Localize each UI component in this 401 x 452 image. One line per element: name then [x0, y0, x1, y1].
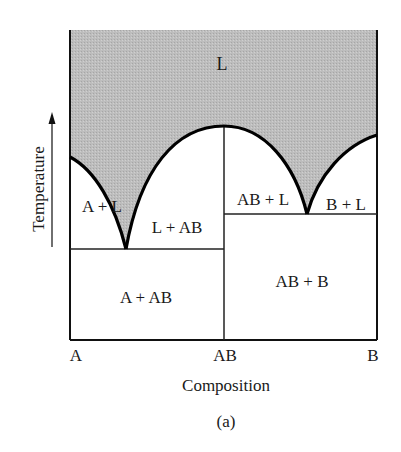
arrow-up-icon	[49, 112, 56, 124]
region-label-ab-plus-l: AB + L	[237, 190, 289, 209]
x-tick-a: A	[70, 346, 83, 365]
region-label-liquid: L	[217, 54, 228, 74]
region-label-ab-plus-b: AB + B	[275, 272, 328, 291]
region-label-a-plus-l: A + L	[82, 197, 122, 216]
phase-diagram: L A + L L + AB AB + L B + L A + AB AB + …	[0, 0, 401, 452]
x-tick-b: B	[367, 346, 378, 365]
figure-caption: (a)	[217, 412, 236, 431]
region-label-l-plus-ab: L + AB	[152, 218, 203, 237]
region-label-b-plus-l: B + L	[326, 195, 366, 214]
x-axis-label: Composition	[182, 376, 270, 395]
region-label-a-plus-ab: A + AB	[120, 288, 172, 307]
y-axis-label: Temperature	[29, 146, 48, 232]
x-tick-ab: AB	[213, 346, 237, 365]
